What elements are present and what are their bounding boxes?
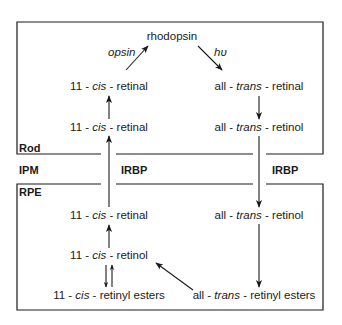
node-rpe-trans-retinol: all - trans - retinol	[215, 210, 304, 222]
node-rod-cis-retinal-bottom: 11 - cis - retinal	[70, 122, 148, 134]
node-rod-trans-retinal: all - trans - retinal	[215, 81, 304, 93]
node-rod-trans-retinol: all - trans - retinol	[215, 122, 304, 134]
diagram-lines	[0, 0, 342, 325]
region-label-rpe: RPE	[19, 187, 42, 198]
visual-cycle-diagram: Rod IPM RPE IRBP IRBP opsin hυ rhodopsin…	[0, 0, 342, 325]
node-rpe-trans-esters: all - trans - retinyl esters	[193, 290, 316, 302]
annotation-light: hυ	[214, 47, 227, 59]
region-label-ipm: IPM	[19, 165, 39, 176]
node-rpe-cis-esters: 11 - cis - retinyl esters	[53, 290, 165, 302]
node-rhodopsin: rhodopsin	[147, 31, 198, 43]
node-rod-cis-retinal-top: 11 - cis - retinal	[70, 81, 148, 93]
node-rpe-cis-retinol: 11 - cis - retinol	[70, 250, 148, 262]
annotation-opsin: opsin	[108, 47, 136, 59]
irbp-label-left: IRBP	[121, 165, 147, 176]
node-rpe-cis-retinal: 11 - cis - retinal	[70, 210, 148, 222]
arrow-isomerase	[156, 263, 193, 290]
irbp-label-right: IRBP	[272, 165, 298, 176]
region-label-rod: Rod	[19, 143, 40, 154]
